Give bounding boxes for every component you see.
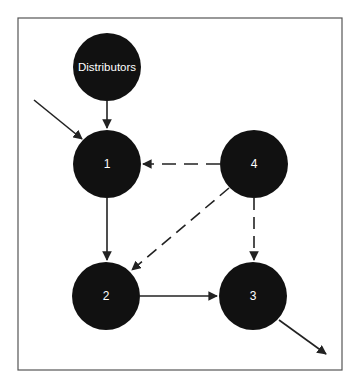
node-label: 3 — [250, 289, 257, 303]
node-2: 2 — [72, 262, 140, 330]
node-label: 4 — [251, 157, 258, 171]
node-3: 3 — [219, 262, 287, 330]
network-diagram: Distributors 1 4 2 3 — [0, 0, 360, 388]
node-label: Distributors — [78, 61, 136, 73]
node-label: 2 — [103, 289, 110, 303]
node-4: 4 — [220, 130, 288, 198]
node-distributors: Distributors — [73, 33, 141, 101]
node-label: 1 — [104, 157, 111, 171]
diagram-frame — [18, 18, 342, 370]
node-1: 1 — [73, 130, 141, 198]
